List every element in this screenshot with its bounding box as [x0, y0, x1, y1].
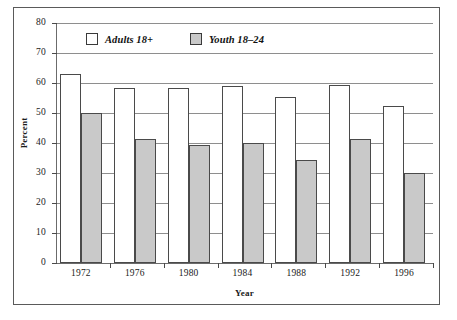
- plot-area: Adults 18+Youth 18–24: [56, 23, 433, 263]
- legend-swatch-youth: [190, 33, 202, 45]
- x-axis-title: Year: [56, 288, 433, 298]
- legend-label: Adults 18+: [105, 34, 153, 45]
- x-tick-label: 1984: [220, 268, 266, 278]
- gridline: [56, 83, 433, 84]
- legend-entry-youth[interactable]: Youth 18–24: [190, 31, 264, 47]
- bar-1984-youth: [243, 143, 264, 263]
- legend-swatch-adults: [86, 33, 98, 45]
- y-tick-label: 40: [18, 138, 46, 148]
- bar-1976-adults: [114, 88, 135, 264]
- bar-1988-adults: [275, 97, 296, 264]
- bar-1980-adults: [168, 88, 189, 264]
- x-tick-label: 1980: [166, 268, 212, 278]
- x-tick-mark: [325, 263, 326, 268]
- x-tick-mark: [218, 263, 219, 268]
- bar-1992-adults: [329, 85, 350, 264]
- y-tick-label: 60: [18, 78, 46, 88]
- y-tick-mark: [52, 53, 57, 54]
- bar-1972-youth: [81, 113, 102, 263]
- x-tick-mark: [271, 263, 272, 268]
- y-tick-label: 70: [18, 48, 46, 58]
- bar-1984-adults: [222, 86, 243, 263]
- y-tick-label: 0: [18, 258, 46, 268]
- y-tick-label: 10: [18, 228, 46, 238]
- bar-1972-adults: [60, 74, 81, 263]
- x-tick-label: 1972: [58, 268, 104, 278]
- y-tick-label: 30: [18, 168, 46, 178]
- bar-1988-youth: [296, 160, 317, 264]
- y-tick-mark: [52, 23, 57, 24]
- y-tick-mark: [52, 233, 57, 234]
- y-tick-mark: [52, 83, 57, 84]
- bar-1980-youth: [189, 145, 210, 264]
- y-tick-mark: [52, 263, 57, 264]
- x-axis-line: [56, 263, 433, 264]
- figure: Percent Year Adults 18+Youth 18–24 01020…: [0, 0, 457, 320]
- bar-1992-youth: [350, 139, 371, 264]
- x-tick-mark: [433, 263, 434, 268]
- bar-1996-youth: [404, 173, 425, 263]
- y-tick-mark: [52, 143, 57, 144]
- y-tick-label: 20: [18, 198, 46, 208]
- x-tick-label: 1996: [381, 268, 427, 278]
- gridline: [56, 23, 433, 24]
- y-tick-label: 80: [18, 18, 46, 28]
- x-tick-mark: [164, 263, 165, 268]
- legend-label: Youth 18–24: [209, 34, 264, 45]
- y-tick-label: 50: [18, 108, 46, 118]
- y-tick-mark: [52, 173, 57, 174]
- x-tick-label: 1988: [273, 268, 319, 278]
- y-tick-mark: [52, 113, 57, 114]
- bar-1976-youth: [135, 139, 156, 264]
- x-tick-mark: [379, 263, 380, 268]
- x-tick-label: 1992: [327, 268, 373, 278]
- legend-entry-adults[interactable]: Adults 18+: [86, 31, 153, 47]
- y-tick-mark: [52, 203, 57, 204]
- gridline: [56, 113, 433, 114]
- bar-1996-adults: [383, 106, 404, 264]
- gridline: [56, 53, 433, 54]
- x-tick-mark: [110, 263, 111, 268]
- x-tick-label: 1976: [112, 268, 158, 278]
